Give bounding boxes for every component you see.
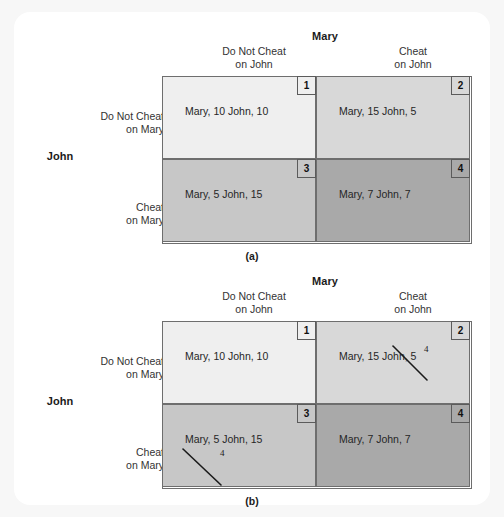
payoff-mary: Mary, 5: [185, 188, 219, 200]
cell-number-badge: 4: [451, 404, 470, 423]
payoff-matrix-panel-b: Mary Do Not Cheat on John Cheat on John …: [14, 263, 490, 505]
cell-number-badge: 1: [297, 76, 316, 95]
payoff-mary: Mary, 5: [185, 433, 219, 445]
panel-caption: (a): [14, 250, 490, 262]
payoff-matrix-panel-a: Mary Do Not Cheat on John Cheat on John …: [14, 18, 490, 254]
column-strategy-do-not-cheat: Do Not Cheat on John: [179, 45, 329, 71]
payoff-john: John, 10: [228, 105, 268, 117]
column-player-label: Mary: [290, 30, 360, 42]
cell-payoffs: Mary, 7 John, 7: [339, 188, 411, 218]
payoff-mary: Mary, 7: [339, 433, 373, 445]
payoff-matrix: 1 Mary, 10 John, 10 2 Mary, 15 John, 5 4: [162, 321, 472, 489]
payoff-john: John, 15: [222, 433, 262, 445]
column-strategy-cheat: Cheat on John: [338, 45, 488, 71]
payoff-cell-4: 4 Mary, 7 John, 7: [316, 159, 470, 242]
payoff-cell-1: 1 Mary, 10 John, 10: [162, 76, 316, 159]
payoff-john: John, 5: [382, 350, 416, 362]
row-strategy-cheat: Cheat on Mary: [60, 446, 164, 472]
cell-payoffs: Mary, 5 John, 15: [185, 188, 262, 218]
row-player-label: John: [22, 395, 98, 407]
payoff-cell-3: 3 Mary, 5 John, 15: [162, 159, 316, 242]
column-strategy-do-not-cheat: Do Not Cheat on John: [179, 290, 329, 316]
row-player-label: John: [22, 150, 98, 162]
cell-number-badge: 4: [451, 159, 470, 178]
payoff-mary: Mary, 10: [185, 105, 225, 117]
payoff-cell-2: 2 Mary, 15 John, 5: [316, 76, 470, 159]
payoff-cell-4: 4 Mary, 7 John, 7: [316, 404, 470, 487]
cell-number-badge: 1: [297, 321, 316, 340]
payoff-matrix: 1 Mary, 10 John, 10 2 Mary, 15 John, 5 3…: [162, 76, 472, 244]
payoff-cell-1: 1 Mary, 10 John, 10: [162, 321, 316, 404]
row-strategy-cheat: Cheat on Mary: [60, 201, 164, 227]
payoff-john: John, 5: [382, 105, 416, 117]
column-player-label: Mary: [290, 275, 360, 287]
payoff-john: John, 7: [376, 433, 410, 445]
column-strategy-cheat: Cheat on John: [338, 290, 488, 316]
cell-payoffs: Mary, 10 John, 10: [185, 105, 268, 135]
payoff-cell-3: 3 Mary, 5 John, 15 4: [162, 404, 316, 487]
cell-payoffs: Mary, 7 John, 7: [339, 433, 411, 463]
payoff-john: John, 15: [222, 188, 262, 200]
cell-payoffs: Mary, 10 John, 10: [185, 350, 268, 380]
cell-payoffs: Mary, 15 John, 5: [339, 105, 416, 135]
figure-card: Mary Do Not Cheat on John Cheat on John …: [14, 12, 490, 505]
cell-number-badge: 2: [451, 76, 470, 95]
cell-number-badge: 2: [451, 321, 470, 340]
payoff-mary: Mary, 10: [185, 350, 225, 362]
handwritten-correction: 4: [424, 344, 429, 354]
row-strategy-do-not-cheat: Do Not Cheat on Mary: [60, 110, 164, 136]
cell-number-badge: 3: [297, 404, 316, 423]
row-strategy-do-not-cheat: Do Not Cheat on Mary: [60, 355, 164, 381]
payoff-mary: Mary, 15: [339, 350, 379, 362]
payoff-john: John, 10: [228, 350, 268, 362]
panel-caption: (b): [14, 495, 490, 507]
payoff-john: John, 7: [376, 188, 410, 200]
cell-number-badge: 3: [297, 159, 316, 178]
payoff-mary: Mary, 7: [339, 188, 373, 200]
cell-payoffs: Mary, 15 John, 5: [339, 350, 416, 380]
handwritten-correction: 4: [220, 448, 225, 458]
payoff-mary: Mary, 15: [339, 105, 379, 117]
payoff-cell-2: 2 Mary, 15 John, 5 4: [316, 321, 470, 404]
